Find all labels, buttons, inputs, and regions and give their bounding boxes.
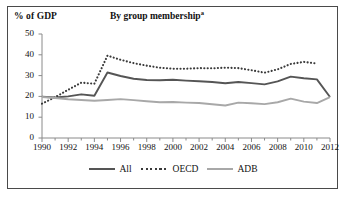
axis-lines — [42, 34, 330, 138]
y-tick-label: 0 — [16, 132, 34, 142]
series-line-all — [42, 72, 330, 97]
y-tick-label: 10 — [16, 111, 34, 121]
legend-label: OECD — [173, 164, 199, 174]
y-tick-label: 50 — [16, 28, 34, 38]
legend-label: ADB — [237, 164, 257, 174]
chart-legend: AllOECDADB — [0, 164, 347, 174]
series-line-adb — [42, 97, 330, 106]
x-tick-label: 2012 — [315, 142, 345, 152]
legend-item-adb[interactable]: ADB — [207, 164, 257, 174]
solid-line-icon — [207, 166, 233, 173]
dotted-line-icon — [141, 166, 169, 173]
y-axis-ticks — [39, 34, 43, 138]
legend-label: All — [119, 164, 131, 174]
legend-item-oecd[interactable]: OECD — [141, 164, 199, 174]
y-tick-label: 40 — [16, 49, 34, 59]
y-tick-label: 20 — [16, 90, 34, 100]
solid-line-icon — [89, 166, 115, 173]
legend-item-all[interactable]: All — [89, 164, 131, 174]
figure-container: % of GDP By group membershipa 0102030405… — [0, 0, 347, 203]
y-tick-label: 30 — [16, 70, 34, 80]
